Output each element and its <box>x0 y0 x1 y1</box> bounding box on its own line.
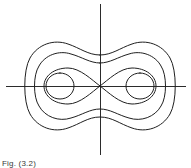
figure-caption: Fig. (3.2) <box>2 159 122 168</box>
phase-portrait-figure: Fig. (3.2) <box>0 0 191 168</box>
phase-portrait-plot <box>0 0 191 168</box>
axes-group <box>6 4 186 155</box>
